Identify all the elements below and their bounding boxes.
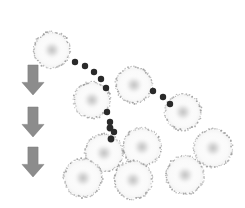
particle-dot (91, 69, 97, 75)
vesicle-nucleus (134, 139, 151, 156)
particle-dot (98, 76, 104, 82)
particle-dot (167, 101, 173, 107)
particle-dot (104, 109, 110, 115)
figure-canvas (0, 0, 245, 208)
particle-dot (82, 63, 88, 69)
vesicle-nucleus (126, 77, 143, 94)
vesicle-nucleus (205, 140, 222, 157)
vesicle-nucleus (96, 145, 113, 162)
vesicle-nucleus (84, 92, 101, 109)
particle-dot (72, 59, 78, 65)
particle-dot (108, 136, 115, 143)
vesicle-nucleus (125, 172, 142, 189)
vesicle-nucleus (75, 170, 92, 187)
vesicle-nucleus (177, 167, 194, 184)
particle-dot (107, 119, 113, 125)
vesicle-nucleus (44, 42, 61, 59)
vesicle-nucleus (175, 104, 192, 121)
particle-dot (107, 125, 114, 132)
particle-dot (103, 85, 109, 91)
particle-dot (160, 94, 166, 100)
particle-dot (150, 88, 156, 94)
vesicle-trail-diagram (0, 0, 245, 208)
